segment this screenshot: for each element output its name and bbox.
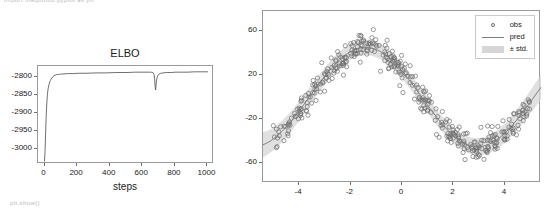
- x-tick-mark: [298, 182, 299, 185]
- observation-point: [399, 53, 403, 57]
- legend-label-obs: obs: [510, 20, 522, 30]
- observation-point: [322, 89, 326, 93]
- y-tick-label: -2900: [0, 107, 32, 116]
- x-tick-label: 2: [432, 187, 472, 196]
- x-tick-label: 1000: [186, 168, 226, 177]
- legend-label-pred: pred: [510, 32, 525, 42]
- y-tick-label: 20: [223, 69, 257, 78]
- x-tick-mark: [109, 163, 110, 166]
- x-tick-label: -4: [278, 187, 318, 196]
- x-tick-mark: [206, 163, 207, 166]
- observation-point: [341, 73, 345, 77]
- observation-point: [385, 38, 389, 42]
- x-tick-mark: [76, 163, 77, 166]
- y-tick-mark: [259, 118, 262, 119]
- observation-point: [378, 69, 382, 73]
- observation-point: [463, 157, 467, 161]
- y-tick-label: -2850: [0, 89, 32, 98]
- observation-point: [306, 113, 310, 117]
- y-tick-label: 60: [223, 25, 257, 34]
- line-marker-icon: [480, 32, 506, 42]
- observation-point: [412, 97, 416, 101]
- y-tick-mark: [34, 112, 37, 113]
- x-tick-label: -2: [330, 187, 370, 196]
- observation-point: [421, 85, 425, 89]
- clipped-bottom-text: plt.show(): [10, 200, 40, 209]
- observation-point: [501, 119, 505, 123]
- observation-point: [330, 76, 334, 80]
- elbo-x-axis-label: steps: [37, 181, 213, 192]
- y-tick-label: -20: [223, 113, 257, 122]
- observation-point: [485, 124, 489, 128]
- observation-point: [434, 132, 438, 136]
- x-tick-mark: [44, 163, 45, 166]
- clipped-top-text: import matplotlib.pyplot as plt: [4, 0, 94, 5]
- elbo-chart-axes: [37, 65, 213, 163]
- y-tick-label: -3000: [0, 143, 32, 152]
- observation-point: [408, 64, 412, 68]
- band-marker-icon: [480, 44, 506, 54]
- y-tick-mark: [34, 148, 37, 149]
- legend-item-std: ± std.: [480, 43, 528, 55]
- observation-point: [427, 93, 431, 97]
- legend-item-obs: obs: [480, 19, 528, 31]
- y-tick-mark: [34, 94, 37, 95]
- y-tick-mark: [259, 74, 262, 75]
- observation-point: [398, 84, 402, 88]
- observation-point: [390, 49, 394, 53]
- x-tick-mark: [174, 163, 175, 166]
- observation-point: [329, 56, 333, 60]
- legend-label-std: ± std.: [510, 44, 528, 54]
- elbo-chart-title: ELBO: [37, 47, 213, 59]
- observation-point: [413, 74, 417, 78]
- legend-item-pred: pred: [480, 31, 528, 43]
- observation-point: [271, 124, 275, 128]
- elbo-line-plot: [38, 66, 214, 164]
- x-tick-mark: [401, 182, 402, 185]
- observation-point: [496, 124, 500, 128]
- observation-point: [461, 150, 465, 154]
- x-tick-mark: [141, 163, 142, 166]
- observation-point: [311, 78, 315, 82]
- x-tick-mark: [350, 182, 351, 185]
- observation-point: [358, 60, 362, 64]
- observation-point: [490, 125, 494, 129]
- y-tick-mark: [34, 130, 37, 131]
- y-tick-mark: [259, 162, 262, 163]
- y-tick-label: -2800: [0, 71, 32, 80]
- observation-point: [320, 61, 324, 65]
- figure-canvas: import matplotlib.pyplot as plt ELBO ste…: [0, 0, 560, 209]
- observation-point: [479, 125, 483, 129]
- y-tick-mark: [259, 30, 262, 31]
- observation-point: [370, 36, 374, 40]
- observation-point: [371, 27, 375, 31]
- observation-point: [314, 98, 318, 102]
- circle-marker-icon: [480, 20, 506, 30]
- x-tick-mark: [452, 182, 453, 185]
- observation-point: [482, 157, 486, 161]
- observation-point: [440, 109, 444, 113]
- y-tick-mark: [34, 76, 37, 77]
- y-tick-label: -2950: [0, 125, 32, 134]
- regression-chart-axes: obs pred ± std.: [262, 10, 540, 182]
- x-tick-label: 0: [381, 187, 421, 196]
- y-tick-label: -60: [223, 157, 257, 166]
- regression-legend: obs pred ± std.: [475, 15, 535, 59]
- x-tick-label: 4: [484, 187, 524, 196]
- x-tick-mark: [504, 182, 505, 185]
- observation-point: [401, 90, 405, 94]
